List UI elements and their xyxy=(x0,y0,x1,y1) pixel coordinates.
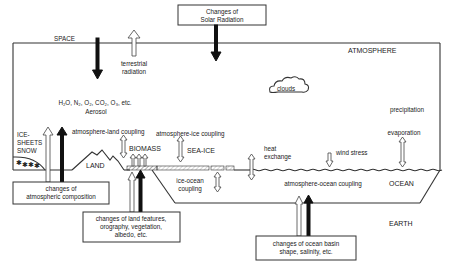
atm-composition-box-line-2: atmospheric composition xyxy=(26,193,96,201)
ice-ocean-coupling-label-1: ice-ocean xyxy=(176,177,204,184)
ice-sheets-label-1: ICE- xyxy=(17,131,30,138)
composition-solid-arrow-icon xyxy=(57,127,67,182)
sea-ice-layer xyxy=(157,166,209,170)
ice-ocean-coupling-arrow-icon xyxy=(214,172,221,192)
land-features-solid-arrow-icon xyxy=(136,170,145,212)
snow-symbols: ✱ ✱ ✱ ✱ xyxy=(16,159,40,169)
heat-exchange-label-1: heat xyxy=(264,145,277,152)
wind-stress-label: wind stress xyxy=(335,149,368,156)
ocean-basin-box-line-1: changes of ocean basin xyxy=(273,240,340,248)
ice-sheets-label-2: SHEETS xyxy=(17,139,42,146)
sea-ice-floe xyxy=(226,166,234,170)
ice-ocean-coupling-label-2: coupling xyxy=(178,185,202,193)
wind-stress-arrow-icon xyxy=(326,153,333,167)
land-label: LAND xyxy=(86,162,105,169)
biomass-arrows-icon xyxy=(130,154,148,166)
ocean-basin-solid-arrow-icon xyxy=(304,195,313,236)
evaporation-label: evaporation xyxy=(388,129,421,137)
land-features-box-line-3: albedo, etc. xyxy=(115,231,148,238)
sea-ice-label: SEA-ICE xyxy=(187,147,215,154)
ocean-label: OCEAN xyxy=(389,180,414,187)
solar-box-line-2: Solar Radiation xyxy=(200,16,244,23)
ice-coupling-arrow-icon xyxy=(177,136,184,162)
ocean-basin-box-line-2: shape, salinity, etc. xyxy=(279,248,332,256)
aerosol-label: Aerosol xyxy=(85,108,106,115)
earth-label: EARTH xyxy=(389,220,413,227)
atmosphere-boundary xyxy=(13,43,440,170)
atm-composition-box-line-1: changes of xyxy=(46,185,77,193)
sea-ice-floe xyxy=(211,166,224,170)
evaporation-arrow-icon xyxy=(399,137,406,167)
atmosphere-ocean-coupling-label: atmosphere-ocean coupling xyxy=(284,180,362,188)
ice-sheets-label-3: SNOW xyxy=(17,147,37,154)
ocean-basin-hollow-arrow-icon xyxy=(295,196,303,236)
atmosphere-ice-coupling-label: atmosphere-ice coupling xyxy=(156,130,225,138)
land-coupling-arrow-icon xyxy=(120,135,127,158)
biomass-label: BIOMASS xyxy=(129,145,161,152)
precipitation-label: precipitation xyxy=(390,106,424,114)
space-label: SPACE xyxy=(54,35,75,42)
heat-exchange-label-2: exchange xyxy=(264,153,292,161)
terrestrial-radiation-label-1: terrestrial xyxy=(121,60,147,67)
terrestrial-radiation-label-2: radiation xyxy=(122,68,147,75)
atmosphere-land-coupling-label: atmosphere-land coupling xyxy=(72,128,145,136)
atmosphere-label: ATMOSPHERE xyxy=(348,47,397,54)
land-features-box-line-2: orography, vegetation, xyxy=(100,223,162,231)
composition-hollow-arrow-icon xyxy=(43,127,53,182)
clouds-label: clouds xyxy=(277,85,295,92)
land-features-hollow-arrow-icon xyxy=(128,172,136,212)
biomass-layer xyxy=(127,166,157,170)
solar-box-line-1: Changes of xyxy=(206,8,238,16)
land-features-box-line-1: changes of land features, xyxy=(96,215,167,223)
incoming-radiation-arrow-icon xyxy=(93,38,103,79)
heat-exchange-arrow-icon xyxy=(248,154,255,180)
svg-text:✱: ✱ xyxy=(34,162,40,169)
climate-system-diagram: ✱ ✱ ✱ ✱ xyxy=(0,0,453,270)
composition-label: H₂O, N₂, O₂, CO₂, O₃, etc. xyxy=(58,99,131,106)
